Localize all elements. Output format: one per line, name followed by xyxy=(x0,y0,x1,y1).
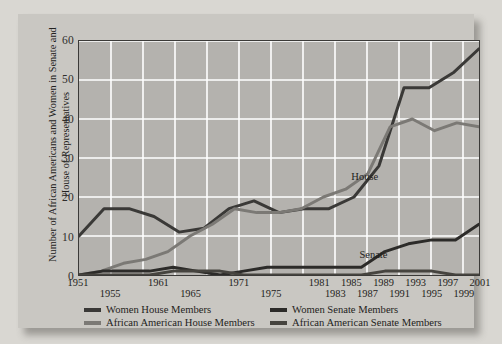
series-annotation: Senate xyxy=(359,249,387,260)
y-tick-label: 20 xyxy=(62,191,74,203)
legend-item: African American House Members xyxy=(84,317,270,328)
x-tick-label: 1961 xyxy=(148,277,169,288)
legend-swatch xyxy=(270,308,287,312)
legend-label: Women House Members xyxy=(106,304,211,315)
legend-label: Women Senate Members xyxy=(292,304,398,315)
legend-swatch xyxy=(84,321,101,325)
x-tick-label: 1981 xyxy=(309,277,330,288)
x-tick-label: 1995 xyxy=(421,288,442,299)
y-tick-label: 50 xyxy=(62,73,74,85)
chart-panel: Number of African Americans and Women in… xyxy=(18,14,474,328)
chart-svg xyxy=(79,41,479,275)
legend-swatch xyxy=(270,321,287,325)
legend-label: African American House Members xyxy=(106,317,255,328)
legend-swatch xyxy=(84,308,101,312)
x-tick-label: 1971 xyxy=(228,277,249,288)
legend-label: African American Senate Members xyxy=(292,317,442,328)
legend-item: African American Senate Members xyxy=(270,317,454,328)
legend-item: Women Senate Members xyxy=(270,304,454,315)
x-tick-label: 1951 xyxy=(68,277,89,288)
x-tick-label: 1983 xyxy=(325,288,346,299)
x-tick-label: 1993 xyxy=(405,277,426,288)
x-tick-label: 1987 xyxy=(357,288,378,299)
x-tick-label: 1975 xyxy=(261,288,282,299)
y-tick-label: 30 xyxy=(62,152,74,164)
chart-page: Number of African Americans and Women in… xyxy=(0,0,502,344)
x-tick-label: 1955 xyxy=(100,288,121,299)
x-tick-label: 1991 xyxy=(389,288,410,299)
y-tick-label: 10 xyxy=(62,231,74,243)
x-tick-label: 1989 xyxy=(373,277,394,288)
x-tick-label: 1997 xyxy=(437,277,458,288)
x-axis-ticks: 1951196119711981198519891993199720011955… xyxy=(78,277,480,303)
series-annotation: House xyxy=(351,171,378,182)
plot-area xyxy=(78,40,480,276)
chart-legend: Women House MembersWomen Senate MembersA… xyxy=(84,304,454,328)
x-tick-label: 1965 xyxy=(180,288,201,299)
x-tick-label: 2001 xyxy=(470,277,491,288)
legend-item: Women House Members xyxy=(84,304,270,315)
x-tick-label: 1999 xyxy=(454,288,475,299)
y-tick-label: 40 xyxy=(62,113,74,125)
x-tick-label: 1985 xyxy=(341,277,362,288)
y-axis-ticks: 0102030405060 xyxy=(18,40,74,276)
y-tick-label: 60 xyxy=(62,34,74,46)
